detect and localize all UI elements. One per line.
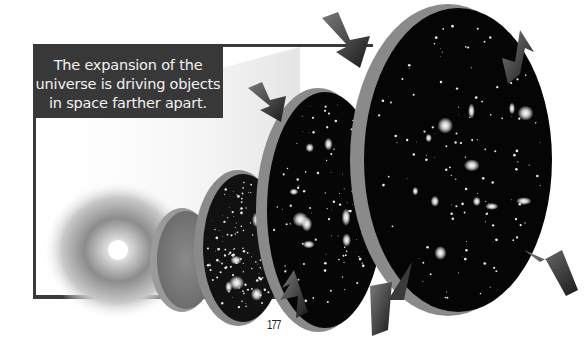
star [335, 120, 338, 123]
galaxy [342, 233, 351, 246]
star [251, 268, 252, 269]
star [406, 139, 408, 141]
star [464, 258, 467, 261]
star [465, 249, 468, 252]
star [310, 106, 311, 107]
star [446, 291, 447, 292]
star [211, 220, 212, 221]
star [416, 141, 417, 142]
star [471, 67, 472, 68]
star [493, 242, 494, 243]
star [339, 203, 341, 205]
star [516, 236, 518, 238]
star [460, 142, 462, 144]
star [511, 116, 512, 117]
star [444, 297, 446, 299]
star [347, 202, 348, 203]
star [426, 155, 427, 156]
star [495, 238, 498, 241]
star [464, 212, 466, 214]
galaxy [251, 288, 263, 301]
star [242, 248, 244, 250]
star [450, 213, 453, 216]
star [462, 257, 463, 258]
star [222, 215, 223, 216]
star [219, 230, 220, 231]
star [388, 97, 389, 98]
star [482, 177, 485, 180]
star [408, 64, 411, 67]
star [485, 221, 486, 222]
star [302, 131, 303, 132]
star [243, 263, 244, 264]
star [247, 289, 249, 291]
star [242, 193, 244, 195]
star [327, 301, 329, 303]
star [456, 133, 458, 135]
star [298, 185, 299, 186]
star [221, 263, 223, 265]
star [222, 241, 223, 242]
star [326, 126, 328, 128]
galaxy [434, 246, 446, 260]
star [440, 48, 441, 49]
galaxy [518, 106, 534, 121]
star [209, 269, 211, 271]
star [245, 207, 246, 208]
star [229, 207, 230, 208]
star [230, 234, 232, 236]
arrow-icon [524, 250, 578, 296]
star [240, 207, 243, 210]
star [467, 46, 469, 48]
star [490, 287, 491, 288]
star [286, 223, 288, 225]
star [207, 247, 209, 249]
star [331, 172, 332, 173]
star [486, 212, 488, 214]
star [516, 150, 519, 153]
star [311, 213, 312, 214]
star [458, 114, 459, 115]
star [252, 269, 253, 270]
star [382, 100, 384, 102]
star [232, 297, 233, 298]
star [324, 110, 326, 112]
star [224, 254, 226, 256]
star [446, 297, 448, 299]
star [401, 78, 403, 80]
caption-line: The expansion of the [33, 56, 223, 75]
star [445, 168, 447, 170]
star [303, 190, 305, 192]
star [337, 104, 338, 105]
star [494, 150, 496, 152]
star [230, 266, 232, 268]
star [413, 153, 416, 156]
star [218, 248, 220, 250]
star [475, 96, 478, 99]
star [302, 116, 303, 117]
star [224, 194, 225, 195]
star [238, 306, 240, 308]
star [471, 139, 473, 141]
star [252, 234, 254, 236]
star [422, 281, 423, 282]
star [359, 258, 362, 261]
star [235, 233, 236, 234]
star [261, 302, 263, 304]
star [255, 261, 257, 263]
star [440, 56, 441, 57]
star [228, 253, 230, 255]
star [243, 292, 245, 294]
galaxy [289, 189, 298, 196]
galaxy [301, 217, 312, 232]
star [343, 262, 344, 263]
star [390, 102, 392, 104]
galaxy [225, 281, 232, 292]
star [209, 263, 210, 264]
star [501, 117, 503, 119]
star [491, 181, 493, 183]
star [312, 131, 314, 133]
star [247, 290, 248, 291]
star [540, 185, 541, 186]
star [325, 192, 326, 193]
